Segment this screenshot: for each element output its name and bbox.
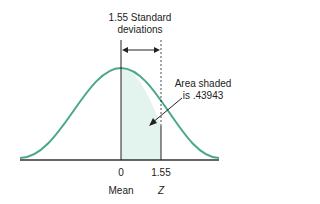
annotation-top-line2: deviations xyxy=(100,24,180,35)
annotation-area-line1: Area shaded xyxy=(168,78,238,89)
annotation-top-line1: 1.55 Standard xyxy=(100,12,180,23)
tick-label-0: 0 xyxy=(111,167,131,178)
annotation-area-line2: is .43943 xyxy=(168,90,238,101)
arrowhead-right xyxy=(154,47,160,53)
mean-label: Mean xyxy=(104,185,138,196)
arrowhead-left xyxy=(122,47,128,53)
area-pointer-arrow xyxy=(152,98,182,123)
shaded-area xyxy=(121,68,161,160)
z-label: Z xyxy=(151,185,171,196)
tick-label-1-55: 1.55 xyxy=(148,167,174,178)
